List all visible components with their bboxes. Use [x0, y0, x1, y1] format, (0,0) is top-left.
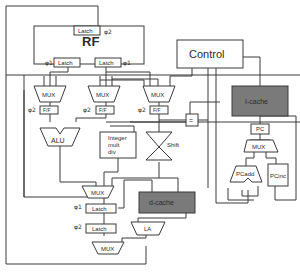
- svg-text:PC: PC: [256, 126, 265, 132]
- svg-text:PCadd: PCadd: [236, 171, 254, 177]
- svg-text:φ2: φ2: [83, 106, 91, 114]
- svg-text:MUX: MUX: [96, 92, 109, 98]
- pipeline-latch-1: φ1 Latch: [74, 203, 116, 213]
- icache: I-cache: [232, 86, 288, 116]
- svg-text:=: =: [189, 117, 193, 124]
- integer-mult-div: Integer mult div: [100, 132, 136, 158]
- pc-adder: PCadd: [230, 166, 262, 182]
- svg-text:φ1: φ1: [123, 59, 131, 67]
- svg-text:φ1: φ1: [74, 203, 82, 211]
- svg-text:PCinc: PCinc: [270, 173, 286, 179]
- load-aligner: LA: [131, 222, 165, 235]
- svg-text:Latch: Latch: [58, 60, 73, 66]
- svg-text:φ2: φ2: [28, 106, 36, 114]
- svg-text:LA: LA: [144, 226, 151, 232]
- svg-text:mult: mult: [108, 142, 120, 148]
- result-mux: MUX: [82, 186, 114, 198]
- svg-text:Latch: Latch: [92, 206, 107, 212]
- svg-text:φ2: φ2: [74, 223, 82, 231]
- alu: ALU: [40, 128, 80, 146]
- svg-text:Integer: Integer: [108, 135, 127, 141]
- svg-text:φ2: φ2: [138, 106, 146, 114]
- datapath-diagram: RF Latch φ2 Latch φ1 Latch φ1 Control MU…: [0, 0, 300, 273]
- pc-incrementer: PCinc: [268, 164, 288, 186]
- operand-mux-1: MUX: [34, 86, 66, 102]
- svg-text:φ1: φ1: [45, 59, 53, 67]
- svg-text:MUX: MUX: [91, 190, 104, 196]
- dcache: d-cache: [139, 192, 195, 213]
- pc-mux: MUX: [244, 140, 278, 152]
- svg-text:Latch: Latch: [99, 60, 114, 66]
- svg-text:div: div: [108, 149, 116, 155]
- svg-text:MUX: MUX: [101, 246, 114, 252]
- svg-text:MUX: MUX: [252, 144, 265, 150]
- svg-text:d-cache: d-cache: [149, 199, 174, 206]
- svg-text:I-cache: I-cache: [245, 98, 268, 105]
- svg-text:Shift: Shift: [167, 142, 179, 148]
- pipeline-latch-2: φ2 Latch: [74, 223, 116, 233]
- svg-text:Latch: Latch: [78, 28, 93, 34]
- svg-text:F/F: F/F: [43, 107, 51, 113]
- svg-text:MUX: MUX: [151, 92, 164, 98]
- flipflop-2: φ2 F/F: [83, 106, 114, 114]
- svg-text:ALU: ALU: [51, 137, 65, 144]
- svg-text:Control: Control: [189, 48, 224, 60]
- flipflop-1: φ2 F/F: [28, 106, 58, 114]
- control-unit: Control: [177, 40, 243, 68]
- svg-text:F/F: F/F: [99, 107, 107, 113]
- svg-text:φ2: φ2: [104, 28, 112, 36]
- operand-mux-3: MUX: [143, 86, 175, 102]
- shifter: Shift: [146, 132, 179, 160]
- operand-mux-2: MUX: [88, 86, 120, 102]
- svg-text:Latch: Latch: [92, 226, 107, 232]
- svg-text:MUX: MUX: [42, 92, 55, 98]
- writeback-mux: MUX: [92, 242, 124, 254]
- register-file: RF Latch φ2 Latch φ1 Latch φ1: [34, 26, 144, 67]
- flipflop-3: φ2 F/F: [138, 106, 168, 114]
- rf-label: RF: [82, 34, 99, 49]
- comparator: =: [186, 114, 198, 126]
- svg-text:F/F: F/F: [153, 107, 161, 113]
- program-counter: PC: [251, 124, 269, 134]
